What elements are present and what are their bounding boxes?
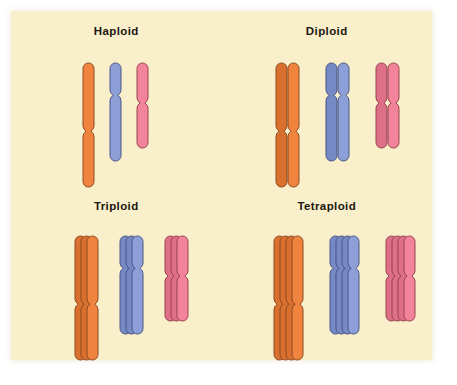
diploid-blue-group bbox=[324, 61, 347, 159]
chromosome-set-tetraploid bbox=[222, 186, 433, 361]
haploid-orange-group bbox=[81, 61, 92, 185]
chromosome-set-haploid bbox=[11, 11, 222, 186]
pink-chromosome bbox=[402, 234, 417, 323]
pink-chromosome bbox=[135, 61, 150, 150]
panel-triploid: Triploid bbox=[11, 186, 222, 361]
orange-chromosome bbox=[85, 234, 100, 362]
chromosome-set-diploid bbox=[222, 11, 433, 186]
orange-chromosome bbox=[290, 234, 305, 362]
blue-chromosome bbox=[346, 234, 361, 336]
chromosome-set-triploid bbox=[11, 186, 222, 361]
triploid-blue-group bbox=[118, 234, 141, 332]
blue-chromosome bbox=[336, 61, 351, 163]
panel-haploid: Haploid bbox=[11, 11, 222, 186]
pink-chromosome bbox=[386, 61, 401, 150]
diploid-pink-group bbox=[374, 61, 397, 146]
figure-panel: Haploid Diploid Triploid Tetraploid bbox=[11, 11, 432, 360]
tetraploid-blue-group bbox=[328, 234, 357, 332]
triploid-pink-group bbox=[163, 234, 186, 319]
tetraploid-orange-group bbox=[272, 234, 301, 358]
haploid-blue-group bbox=[108, 61, 119, 159]
triploid-orange-group bbox=[73, 234, 96, 358]
panel-diploid: Diploid bbox=[222, 11, 433, 186]
orange-chromosome bbox=[286, 61, 301, 189]
diploid-orange-group bbox=[274, 61, 297, 185]
blue-chromosome bbox=[130, 234, 145, 336]
tetraploid-pink-group bbox=[384, 234, 413, 319]
haploid-pink-group bbox=[135, 61, 146, 146]
pink-chromosome bbox=[175, 234, 190, 323]
panel-tetraploid: Tetraploid bbox=[222, 186, 433, 361]
orange-chromosome bbox=[81, 61, 96, 189]
blue-chromosome bbox=[108, 61, 123, 163]
